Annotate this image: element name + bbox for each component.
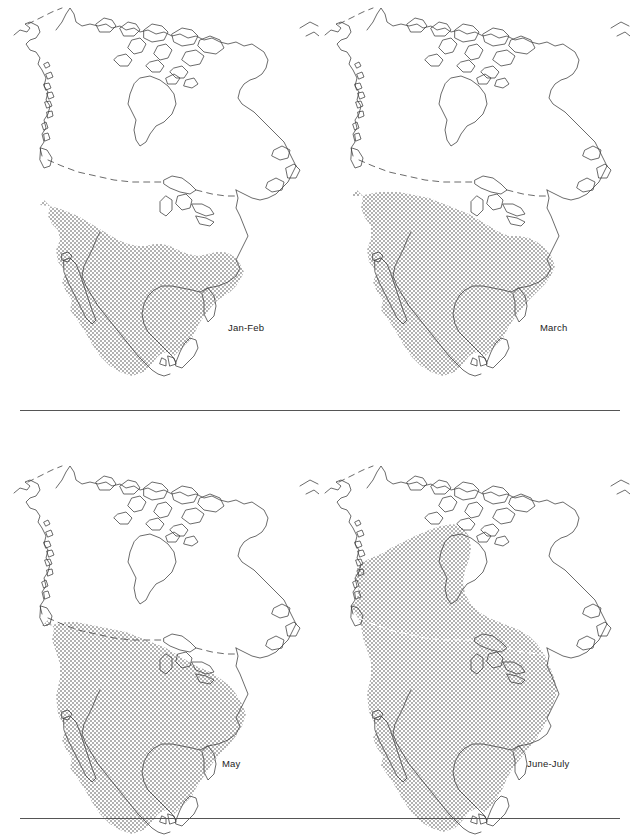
map-panel-june-july[interactable]: June-July (311, 458, 630, 839)
north-america-map-may (0, 458, 319, 839)
north-america-map-march (311, 0, 630, 400)
divider-rule-middle (20, 410, 620, 411)
map-row-bottom: May (0, 458, 638, 839)
north-america-map-june-july (311, 458, 630, 839)
panel-label-jan-feb: Jan-Feb (228, 322, 264, 333)
divider-rule-bottom (20, 818, 620, 819)
panel-label-june-july: June-July (527, 758, 569, 769)
map-panel-jan-feb[interactable]: Jan-Feb (0, 0, 319, 400)
stipple-range-june-july (311, 458, 630, 839)
map-row-top: Jan-Feb (0, 0, 638, 400)
panel-label-march: March (540, 322, 567, 333)
stipple-range-may (0, 458, 319, 839)
north-america-map-jan-feb (0, 0, 319, 400)
map-panel-march[interactable]: March (311, 0, 630, 400)
panel-label-may: May (222, 758, 241, 769)
map-panel-may[interactable]: May (0, 458, 319, 839)
